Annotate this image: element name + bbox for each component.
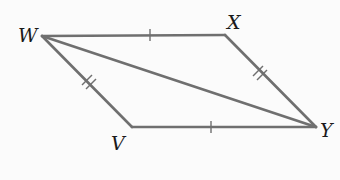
- vertex-label-w: W: [18, 24, 39, 46]
- parallelogram-diagram: W X Y V: [0, 0, 340, 180]
- vertex-label-v: V: [111, 132, 127, 154]
- vertex-label-x: X: [225, 11, 242, 33]
- segment-wx: [42, 35, 225, 36]
- vertex-label-y: Y: [320, 119, 335, 141]
- diagonal-wy: [42, 36, 316, 127]
- double-tick-mark-xy: [253, 66, 267, 80]
